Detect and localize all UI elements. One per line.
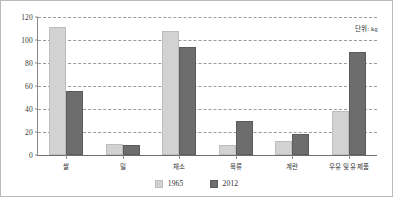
bar-2012-육류 — [236, 121, 253, 156]
legend-item-2012: 2012 — [210, 179, 239, 188]
x-axis-tick-mark — [349, 155, 350, 159]
x-axis-tick-label: 밀 — [120, 161, 126, 171]
bar-2012-쌀 — [66, 91, 83, 155]
x-axis-tick-label: 계란 — [286, 161, 298, 171]
bar-group: 채소 — [151, 17, 208, 155]
plot-area: 020406080100120 쌀밀채소육류계란우유 및 유제품 — [37, 17, 377, 156]
x-axis-tick-label: 채소 — [173, 161, 185, 171]
bar-group: 계란 — [264, 17, 321, 155]
legend: 19652012 — [1, 179, 392, 188]
bar-1965-쌀 — [49, 27, 66, 155]
bar-2012-우유 및 유제품 — [349, 52, 366, 156]
y-axis-tick-label: 40 — [25, 105, 33, 114]
y-axis-tick-label: 100 — [21, 36, 33, 45]
bar-1965-채소 — [162, 31, 179, 155]
x-axis-tick-mark — [179, 155, 180, 159]
y-axis-tick-label: 0 — [29, 151, 33, 160]
bar-group: 밀 — [95, 17, 152, 155]
bar-groups: 쌀밀채소육류계란우유 및 유제품 — [38, 17, 377, 155]
legend-item-1965: 1965 — [155, 179, 184, 188]
bar-2012-채소 — [179, 47, 196, 155]
legend-label: 2012 — [223, 179, 239, 188]
legend-swatch-icon — [155, 180, 163, 188]
y-axis-tick-label: 20 — [25, 128, 33, 137]
x-axis-tick-mark — [236, 155, 237, 159]
legend-swatch-icon — [210, 180, 218, 188]
x-axis-tick-label: 우유 및 유제품 — [329, 161, 369, 171]
x-axis-tick-mark — [66, 155, 67, 159]
legend-label: 1965 — [168, 179, 184, 188]
y-axis-tick-label: 80 — [25, 59, 33, 68]
bar-group: 육류 — [208, 17, 265, 155]
x-axis-tick-label: 육류 — [230, 161, 242, 171]
bar-group: 우유 및 유제품 — [321, 17, 378, 155]
bar-1965-밀 — [106, 144, 123, 156]
x-axis-tick-mark — [292, 155, 293, 159]
bar-1965-육류 — [219, 145, 236, 155]
bar-1965-우유 및 유제품 — [332, 111, 349, 155]
bar-2012-계란 — [292, 134, 309, 155]
x-axis-tick-label: 쌀 — [63, 161, 69, 171]
chart-figure: 단위: kg 020406080100120 쌀밀채소육류계란우유 및 유제품 … — [0, 0, 393, 197]
bar-2012-밀 — [123, 145, 140, 155]
bar-group: 쌀 — [38, 17, 95, 155]
y-axis-tick-label: 120 — [21, 13, 33, 22]
x-axis-tick-mark — [123, 155, 124, 159]
y-axis-tick-label: 60 — [25, 82, 33, 91]
bar-1965-계란 — [275, 141, 292, 155]
